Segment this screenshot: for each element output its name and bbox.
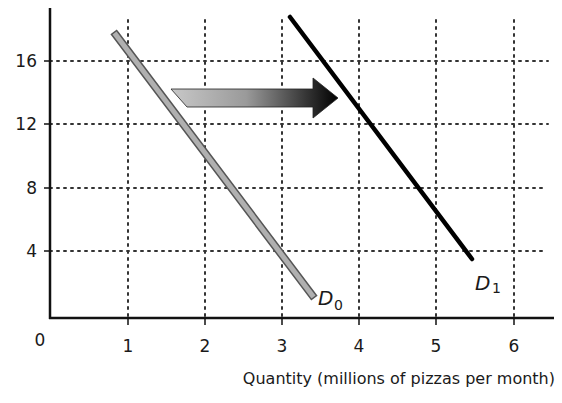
y-tick-label-4: 4 [26,241,37,261]
y-tick-label-12: 12 [15,114,37,134]
x-tick-label-6: 6 [509,336,520,356]
demand-shift-chart: 16 12 8 4 0 1 2 3 4 5 6 Quantity (millio… [0,0,562,403]
x-tick-label-2: 2 [200,336,211,356]
label-d1-main: D [475,271,490,295]
label-d1-sub: 1 [492,280,501,296]
label-d0-sub: 0 [334,297,343,313]
origin-label: 0 [35,330,46,350]
label-d0-main: D [318,286,333,310]
x-tick-label-5: 5 [431,336,442,356]
y-tick-label-16: 16 [15,51,37,71]
label-d0: D 0 [318,286,343,313]
shift-right-arrow-icon [171,78,338,118]
demand-curve-d0 [116,35,312,295]
y-tick-label-8: 8 [26,178,37,198]
label-d1: D 1 [475,271,501,296]
x-axis-title: Quantity (millions of pizzas per month) [243,369,555,388]
x-tick-label-4: 4 [354,336,365,356]
demand-curve-d1 [290,17,472,259]
x-tick-label-1: 1 [123,336,134,356]
x-tick-label-3: 3 [277,336,288,356]
